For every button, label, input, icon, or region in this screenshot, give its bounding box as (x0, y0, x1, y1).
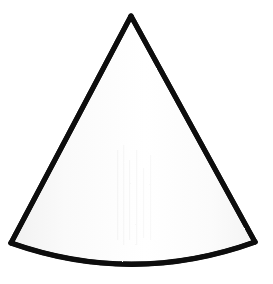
figure-canvas (0, 0, 273, 284)
cone-figure (0, 0, 273, 284)
cone-apex-vertex (128, 14, 133, 19)
